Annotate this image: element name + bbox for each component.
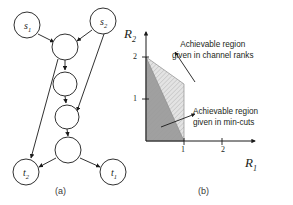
edge-v4-t1 [80,158,100,167]
y-axis-label-text: R [124,26,132,41]
edge-v2-v3 [65,96,66,103]
x-axis-label-sub: 1 [253,164,257,173]
edge-s2-v1 [77,30,92,41]
panel-a-caption: (a) [55,186,66,196]
y-axis-label-sub: 2 [132,35,136,44]
y-tick-label-2: 2 [133,52,137,61]
x-axis-label-text: R [245,155,253,170]
edge-s1-v1 [38,34,54,42]
x-axis-label: R1 [245,155,257,173]
x-tick-label-1: 1 [181,145,185,154]
figure-container: s1 s2 t2 t1 (a) [0,0,293,205]
chart-regions [146,57,184,141]
y-tick-label-1: 1 [133,94,137,103]
annotation-min-cuts-line1: Achievable region [193,107,258,118]
annotation-channel-ranks-line1: Achievable region [172,40,253,51]
edge-s2-v3 [77,34,104,111]
rate-region-chart [133,10,293,185]
annotation-channel-ranks: Achievable region given in channel ranks [172,40,253,61]
annotation-channel-ranks-line2: given in channel ranks [172,51,253,62]
edge-v1-t2 [31,59,58,158]
node-v4 [55,137,81,163]
panel-b-caption: (b) [198,186,209,196]
node-v3 [55,105,79,129]
y-axis-label: R2 [124,26,136,44]
edge-v4-t2 [39,158,56,167]
graph-nodes: s1 s2 t2 t1 [13,8,126,185]
edge-v3-v4 [67,129,68,136]
annotation-min-cuts: Achievable region given in min-cuts [193,107,258,128]
x-tick-label-2: 2 [221,145,225,154]
node-v1 [52,34,78,60]
annotation-min-cuts-line2: given in min-cuts [193,118,258,129]
node-v2 [53,72,77,96]
